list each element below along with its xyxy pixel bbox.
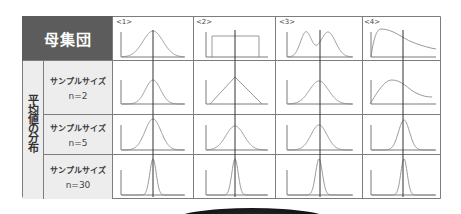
chart-cell <box>275 60 362 114</box>
chart-cell <box>112 114 193 154</box>
chart-cell <box>362 154 441 199</box>
chart-cell <box>275 154 362 199</box>
sample-size-cell-n5: サンプルサイズ n=5 <box>43 114 112 154</box>
dark-oval-shape <box>172 208 332 214</box>
sample-size-title: サンプルサイズ <box>50 164 106 175</box>
distribution-table: 母集団 平均値の分布 サンプルサイズ n=2 サンプルサイズ n=5 サンプルサ… <box>22 16 441 199</box>
chart-cell <box>193 114 275 154</box>
sample-size-title: サンプルサイズ <box>50 122 106 133</box>
column-label-2: <2> <box>196 19 212 26</box>
sample-size-value: n=5 <box>69 138 88 148</box>
chart-cell <box>193 154 275 199</box>
mean-distribution-label: 平均値の分布 <box>27 96 39 153</box>
sample-size-cell-n2: サンプルサイズ n=2 <box>43 60 112 114</box>
chart-cell <box>193 60 275 114</box>
population-header: 母集団 <box>22 16 113 61</box>
sample-size-cell-n30: サンプルサイズ n=30 <box>43 154 112 199</box>
column-label-4: <4> <box>364 19 380 26</box>
chart-cell <box>362 114 441 154</box>
sample-size-title: サンプルサイズ <box>50 75 106 86</box>
column-label-3: <3> <box>279 19 295 26</box>
mean-distribution-label-cell: 平均値の分布 <box>23 60 43 199</box>
sample-size-value: n=2 <box>69 91 88 101</box>
sample-size-value: n=30 <box>66 180 91 190</box>
chart-cell <box>112 154 193 199</box>
population-header-label: 母集団 <box>44 28 92 49</box>
chart-cell <box>112 60 193 114</box>
column-label-1: <1> <box>116 19 132 26</box>
chart-cell <box>275 114 362 154</box>
chart-cell <box>362 60 441 114</box>
